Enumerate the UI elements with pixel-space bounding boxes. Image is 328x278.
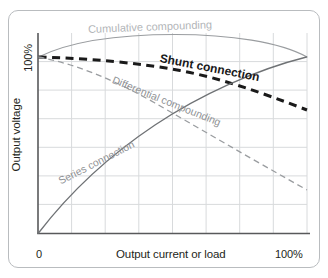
x-axis-max-tick-label: 100%	[275, 248, 303, 260]
y-axis-title: Output voltage	[10, 98, 22, 171]
figure-root: 100% Output voltage 0 Output current or …	[0, 0, 328, 278]
y-axis-max-tick-label: 100%	[22, 44, 34, 72]
x-axis-min-tick-label: 0	[36, 248, 42, 260]
chart-plot-area	[0, 0, 328, 278]
x-axis-title: Output current or load	[116, 248, 226, 260]
